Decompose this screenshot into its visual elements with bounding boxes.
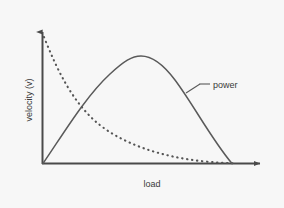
y-axis-label: velocity (v): [24, 78, 34, 121]
figure-canvas: power load velocity (v): [0, 0, 284, 208]
power-series-label: power: [213, 80, 238, 90]
chart-plot: power load velocity (v): [0, 0, 284, 208]
x-axis-label: load: [143, 179, 160, 189]
